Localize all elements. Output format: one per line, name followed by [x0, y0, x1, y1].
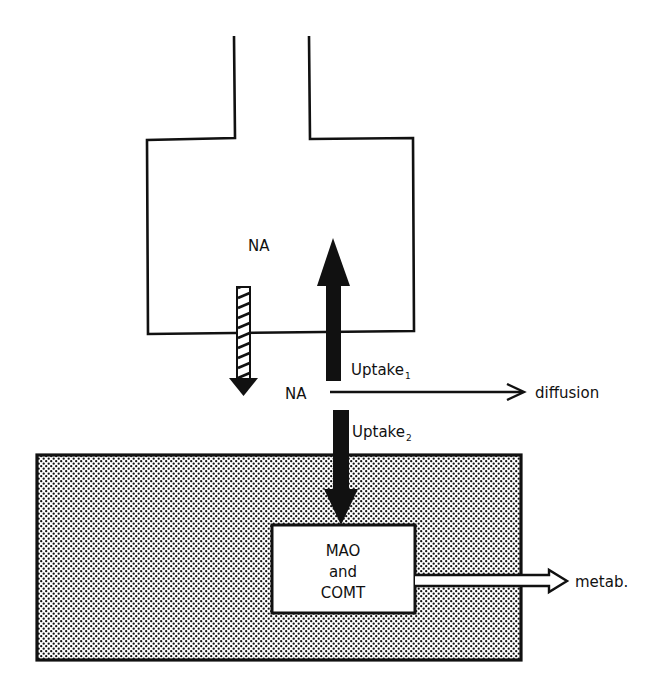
na-outside-label: NA — [285, 385, 307, 403]
na-inside-label: NA — [248, 237, 270, 255]
noradrenaline-disposition-diagram: NA NA Uptake1 Uptake2 diffusion MAO and … — [0, 0, 661, 695]
nerve-terminal — [147, 36, 414, 334]
uptake1-arrow-icon — [317, 238, 350, 381]
metab-label: metab. — [575, 573, 628, 591]
diffusion-arrow-icon — [330, 384, 524, 400]
enzyme-label-mao: MAO — [326, 542, 361, 560]
release-arrow-icon — [229, 287, 258, 396]
diffusion-label: diffusion — [535, 384, 599, 402]
uptake1-label: Uptake1 — [351, 361, 411, 381]
enzyme-label-comt: COMT — [321, 584, 366, 602]
uptake2-label: Uptake2 — [352, 423, 412, 443]
enzyme-label-and: and — [329, 563, 357, 581]
